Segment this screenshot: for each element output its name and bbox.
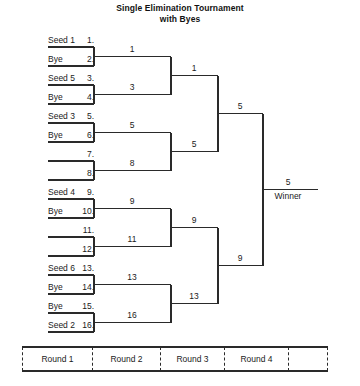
seed-label: Bye	[48, 90, 63, 104]
round3-slot: 13	[176, 291, 212, 302]
list-item: 14. Bye	[12, 280, 94, 294]
seed-label: Bye	[48, 52, 63, 66]
round3-slot: 5	[176, 139, 212, 150]
seed-number: 6.	[70, 128, 94, 142]
seed-number: 14.	[70, 280, 94, 294]
seed-number: 8.	[70, 166, 94, 180]
list-item: 15. Bye	[12, 299, 94, 313]
round2-slot: 1	[108, 44, 156, 55]
round2-slot: 9	[108, 196, 156, 207]
legend-cell-round-4: Round 4	[224, 347, 288, 371]
seed-label: Bye	[48, 204, 63, 218]
seed-number: 15.	[70, 299, 94, 313]
list-item: 2. Bye	[12, 52, 94, 66]
list-item: 6. Bye	[12, 128, 94, 142]
seed-label: Seed 6	[48, 261, 75, 275]
list-item: 16. Seed 2	[12, 318, 94, 332]
round3-slot: 1	[176, 63, 212, 74]
list-item: 10. Bye	[12, 204, 94, 218]
seed-label: Seed 3	[48, 109, 75, 123]
seed-label: Seed 1	[48, 33, 75, 47]
seed-label: Bye	[48, 299, 63, 313]
round4-slot: 5	[222, 101, 258, 112]
round2-slot: 13	[108, 272, 156, 283]
list-item: 3. Seed 5	[12, 71, 94, 85]
seed-label: Seed 5	[48, 71, 75, 85]
seed-number: 7.	[70, 147, 94, 161]
legend-cell-winner	[288, 347, 328, 371]
list-item: 7.	[12, 147, 94, 161]
list-item: 11.	[12, 223, 94, 237]
round2-slot: 5	[108, 120, 156, 131]
legend-cell-round-2: Round 2	[92, 347, 160, 371]
legend-cell-round-3: Round 3	[160, 347, 224, 371]
round4-slot: 9	[222, 253, 258, 264]
seed-number: 10.	[70, 204, 94, 218]
winner-label: Winner	[268, 191, 308, 202]
seed-label: Seed 4	[48, 185, 75, 199]
seed-number: 12.	[70, 242, 94, 256]
list-item: 4. Bye	[12, 90, 94, 104]
list-item: 8.	[12, 166, 94, 180]
round-legend: Round 1 Round 2 Round 3 Round 4	[22, 347, 328, 371]
round2-slot: 8	[108, 158, 156, 169]
seed-label: Bye	[48, 128, 63, 142]
list-item: 13. Seed 6	[12, 261, 94, 275]
list-item: 9. Seed 4	[12, 185, 94, 199]
list-item: 12.	[12, 242, 94, 256]
list-item: 1. Seed 1	[12, 33, 94, 47]
seed-number: 4.	[70, 90, 94, 104]
seed-label: Seed 2	[48, 318, 75, 332]
seed-label: Bye	[48, 280, 63, 294]
round2-slot: 11	[108, 234, 156, 245]
seed-number: 11.	[70, 223, 94, 237]
round2-slot: 3	[108, 82, 156, 93]
seed-number: 2.	[70, 52, 94, 66]
final-slot: 5	[268, 177, 308, 188]
legend-cell-round-1: Round 1	[22, 347, 92, 371]
round2-slot: 16	[108, 310, 156, 321]
round3-slot: 9	[176, 215, 212, 226]
list-item: 5. Seed 3	[12, 109, 94, 123]
